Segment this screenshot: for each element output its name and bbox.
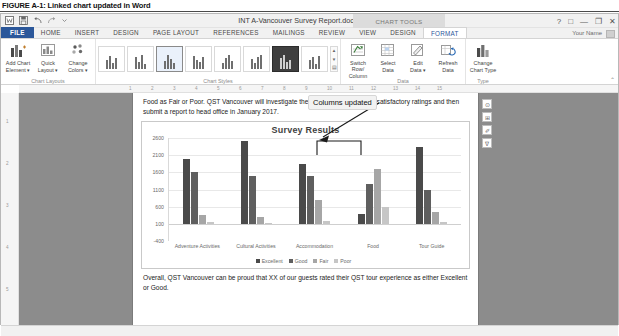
- select-data-button[interactable]: Select Data: [374, 41, 402, 73]
- tab-file[interactable]: FILE: [1, 27, 34, 38]
- restore-button[interactable]: ❐: [595, 17, 602, 26]
- save-icon[interactable]: [19, 16, 28, 25]
- gallery-scroll-up-icon[interactable]: ▲: [332, 47, 336, 54]
- tab-chart-design[interactable]: DESIGN: [383, 27, 423, 38]
- edit-data-button[interactable]: Edit Data ▾: [404, 41, 432, 73]
- bar-excellent[interactable]: [241, 141, 248, 223]
- chart-styles-gallery[interactable]: ▲ ▼ ▤: [98, 41, 338, 77]
- gallery-more-icon[interactable]: ▤: [332, 64, 337, 71]
- bar-fair[interactable]: [432, 212, 439, 224]
- bar-poor[interactable]: [265, 223, 272, 224]
- tab-home[interactable]: HOME: [34, 27, 68, 38]
- undo-icon[interactable]: [33, 16, 42, 25]
- bar-excellent[interactable]: [183, 159, 190, 224]
- document-page[interactable]: Food as Fair or Poor. QST Vancouver will…: [133, 93, 478, 325]
- help-button[interactable]: ?: [557, 17, 561, 26]
- chart-style-thumb[interactable]: [272, 46, 299, 72]
- bar-good[interactable]: [424, 190, 431, 224]
- switch-row-column-button[interactable]: Switch Row/ Column: [344, 41, 372, 80]
- bar-fair[interactable]: [374, 169, 381, 224]
- gallery-scroll-controls[interactable]: ▲ ▼ ▤: [330, 46, 338, 72]
- chart-object[interactable]: Survey Results 2600 2100 1600 1100 600 1…: [141, 121, 470, 269]
- chart-style-thumb[interactable]: [214, 46, 241, 72]
- bar-good[interactable]: [249, 176, 256, 224]
- horizontal-ruler[interactable]: 1 2 3 4 5 6 7 8 9 10 11 12 13 14 15: [19, 85, 618, 93]
- tab-insert[interactable]: INSERT: [68, 27, 106, 38]
- refresh-data-button[interactable]: Refresh Data: [434, 41, 462, 73]
- bar-good[interactable]: [366, 184, 373, 223]
- legend-item-fair[interactable]: Fair: [313, 258, 328, 264]
- figure-caption: FIGURE A-1: Linked chart updated in Word: [0, 0, 619, 11]
- bar-fair[interactable]: [257, 217, 264, 224]
- bar-group[interactable]: [358, 138, 389, 241]
- chart-style-thumb[interactable]: [127, 46, 154, 72]
- chart-elements-button[interactable]: ⊞: [482, 112, 492, 122]
- gallery-scroll-down-icon[interactable]: ▼: [332, 56, 336, 63]
- paragraph-below-chart-text: Overall, QST Vancouver can be proud that…: [143, 274, 467, 291]
- callout-columns-updated: Columns updated: [308, 95, 377, 110]
- bar-good[interactable]: [191, 172, 198, 224]
- add-chart-element-label-2: Element ▾: [6, 67, 30, 73]
- close-button[interactable]: ✕: [609, 17, 616, 26]
- redo-icon[interactable]: [47, 16, 56, 25]
- tab-view[interactable]: VIEW: [352, 27, 383, 38]
- bar-poor[interactable]: [440, 222, 447, 224]
- tab-mailings[interactable]: MAILINGS: [266, 27, 312, 38]
- chart-style-thumb[interactable]: [301, 46, 328, 72]
- legend-item-poor[interactable]: Poor: [334, 258, 351, 264]
- tab-references[interactable]: REFERENCES: [206, 27, 266, 38]
- change-colors-button[interactable]: Change Colors ▾: [64, 41, 92, 73]
- chart-style-thumb[interactable]: [243, 46, 270, 72]
- change-chart-type-label-2: Chart Type: [470, 67, 496, 73]
- chart-styles-button[interactable]: ✐: [482, 125, 492, 135]
- bar-group[interactable]: [416, 138, 447, 241]
- tab-page-layout[interactable]: PAGE LAYOUT: [146, 27, 206, 38]
- paragraph-below-chart[interactable]: Overall, QST Vancouver can be proud that…: [133, 269, 478, 293]
- chart-filters-button[interactable]: ∇: [482, 138, 492, 148]
- chart-legend[interactable]: Excellent Good Fair Poor: [144, 258, 463, 264]
- ruler-tick: 1: [6, 119, 9, 124]
- minimize-button[interactable]: —: [580, 17, 588, 26]
- paragraph-above-chart[interactable]: Food as Fair or Poor. QST Vancouver will…: [133, 93, 478, 117]
- legend-item-excellent[interactable]: Excellent: [256, 258, 283, 264]
- bar-group[interactable]: [299, 138, 330, 241]
- bar-fair[interactable]: [199, 215, 206, 224]
- legend-item-good[interactable]: Good: [289, 258, 308, 264]
- quick-layout-button[interactable]: Quick Layout ▾: [34, 41, 62, 73]
- ruler-tick: 2: [6, 161, 9, 166]
- account-name-label[interactable]: Your Name: [572, 28, 602, 39]
- avatar[interactable]: [606, 30, 615, 38]
- chart-style-thumb[interactable]: [185, 46, 212, 72]
- chart-style-thumb[interactable]: [98, 46, 125, 72]
- collapse-ribbon-icon[interactable]: ⌃: [610, 76, 615, 83]
- customize-qat-icon[interactable]: [61, 16, 70, 25]
- legend-label: Good: [295, 258, 308, 264]
- bar-excellent[interactable]: [358, 214, 365, 224]
- y-tick-label: 2100: [152, 152, 164, 158]
- bar-excellent[interactable]: [299, 164, 306, 224]
- ribbon-display-options-button[interactable]: □: [568, 17, 573, 26]
- bar-poor[interactable]: [323, 221, 330, 224]
- plot-wrapper: 2600 2100 1600 1100 600 100 -400: [144, 138, 463, 241]
- bar-excellent[interactable]: [416, 147, 423, 224]
- vertical-ruler[interactable]: 1 2 3 4 5: [1, 93, 19, 325]
- bar-poor[interactable]: [207, 222, 214, 224]
- change-chart-type-button[interactable]: Change Chart Type: [469, 41, 497, 73]
- bar-good[interactable]: [307, 176, 314, 224]
- tab-design[interactable]: DESIGN: [106, 27, 146, 38]
- window-controls: ? □ — ❐ ✕: [557, 14, 616, 28]
- bar-fair[interactable]: [315, 200, 322, 224]
- ruler-tick: 15: [437, 86, 442, 91]
- chart-style-thumb-selected[interactable]: [156, 46, 183, 72]
- change-colors-label-1: Change: [69, 60, 88, 66]
- chart-layout-options-icon[interactable]: ⊙: [482, 99, 492, 109]
- chart-title[interactable]: Survey Results: [142, 125, 469, 135]
- bar-group[interactable]: [183, 138, 214, 241]
- tab-chart-format[interactable]: FORMAT: [423, 27, 467, 38]
- bar-group[interactable]: [241, 138, 272, 241]
- palette-icon: [70, 42, 87, 59]
- change-colors-label-2: Colors ▾: [68, 67, 88, 73]
- bar-poor[interactable]: [382, 207, 389, 224]
- tab-review[interactable]: REVIEW: [312, 27, 352, 38]
- add-chart-element-button[interactable]: Add Chart Element ▾: [4, 41, 32, 73]
